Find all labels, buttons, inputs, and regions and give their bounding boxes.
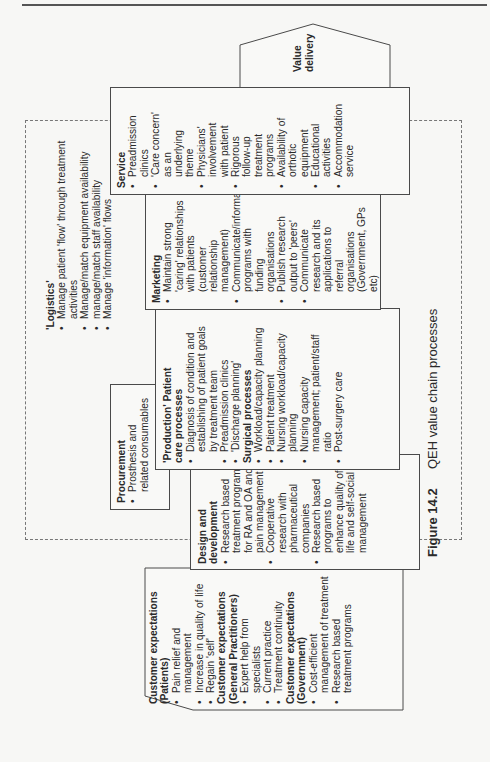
list-item: 'Care concern' as an underlying theme [150,106,196,188]
list-item: Diagnosis of condition and establishing … [185,315,219,463]
production-title: 'Production' Patient care processes [162,353,185,463]
customer-gov-subtitle: (Government) [296,574,307,704]
list-item: Regain 'self' [205,574,216,704]
service-box: Service Preadmission clinics 'Care conce… [110,87,410,195]
list-item: Rigorous follow-up treatment programs [230,106,276,188]
list-item: Preadmission clinics [219,315,230,463]
customer-group-patients: Customer expectations (Patients) Pain re… [148,574,216,704]
procurement-title: Procurement [116,391,127,503]
list-item: manage/match staff availability [91,130,102,330]
customer-gps-title: Customer expectations [216,574,227,704]
value-delivery-line2: delivery [304,22,316,72]
page-top-rule [22,5,487,7]
service-title: Service [116,94,127,188]
list-item: Research based treatment programs [331,574,354,704]
customer-expectations-box: Customer expectations (Patients) Pain re… [148,574,398,704]
list-item: Availability of orthotic equipment [276,106,310,188]
list-item: Manage patient 'flow' through treatment … [56,130,79,330]
list-item: Communicate research and its application… [299,199,379,303]
list-item: Manage/match equipment availability [79,130,90,330]
list-item: Nursing capacity management; patient/sta… [299,315,333,463]
list-item: Post-surgery care [333,315,344,463]
list-item: Nursing workload/capacity planning [276,315,299,463]
list-item: Prosthesis and related consumables [127,391,150,503]
marketing-title: Marketing [151,199,162,303]
list-item: Treatment continuity [273,574,284,704]
value-delivery-arrow [238,20,394,90]
customer-patients-subtitle: (Patients) [159,574,170,704]
list-item: Cost-efficient management of treatment [308,574,331,704]
design-title: Design and development [197,460,220,564]
list-item: Educational activities [310,106,333,188]
list-item: 'Discharge planning' [230,315,241,463]
figure-caption: Figure 14.2 QEH value chain processes [425,237,440,557]
list-item: Preadmission clinics [127,106,150,188]
customer-patients-title: Customer expectations [148,574,159,704]
list-item: Expert help from specialists [239,574,262,704]
marketing-box: Marketing Maintain strong 'caring' relat… [145,192,381,310]
list-item: Maintain strong 'caring' relationships w… [162,199,230,303]
list-item: Pain relief and management [171,574,194,704]
design-development-box: Design and development Research based tr… [190,454,420,570]
list-item: Research based programs to enhance quali… [311,460,368,564]
diagram-stage: Value delivery Customer expectations (Pa… [0,0,490,762]
list-item: Communicate/information programs with fu… [231,199,277,303]
list-item: Physicians' involvement with patient [196,106,230,188]
list-item: Current practice [262,574,273,704]
list-item: Publish research output to 'peers' [276,199,299,303]
list-item: Workload/capacity planning [253,315,264,463]
production-box: 'Production' Patient care processes Diag… [155,308,400,470]
list-item: Patient treatment [265,315,276,463]
list-item: Accommodation service [333,106,356,188]
customer-gov-title: Customer expectations [285,574,296,704]
value-delivery-label: Value delivery [292,22,316,72]
figure-title: QEH value chain processes [425,309,440,469]
logistics-title: 'Logistics' [45,130,56,330]
customer-gps-subtitle: (General Practitioners) [228,574,239,704]
customer-group-government: Customer expectations (Government) Cost-… [285,574,353,704]
list-item: Increase in quality of life [194,574,205,704]
customer-group-gps: Customer expectations (General Practitio… [216,574,284,704]
list-item: Cooperative research with pharmaceutical… [265,460,311,564]
list-item: Research based treatment programs for RA… [220,460,266,564]
figure-number: Figure 14.2 [425,488,440,557]
value-delivery-line1: Value [292,22,304,72]
surgical-processes-title: Surgical processes [242,315,253,463]
logistics-section: 'Logistics' Manage patient 'flow' throug… [45,130,113,330]
